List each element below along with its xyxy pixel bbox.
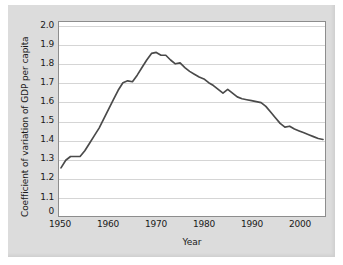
y-axis-tick-label: 1.5 <box>10 116 54 125</box>
x-axis-tick-label: 1950 <box>40 219 80 229</box>
y-axis-tick-label: 2.0 <box>10 21 54 30</box>
y-axis-title-wrapper: Coefficient of variation of GDP per capi… <box>22 217 36 265</box>
x-axis-tick-label: 2000 <box>280 219 320 229</box>
y-axis-tick-label: 1.6 <box>10 97 54 106</box>
x-axis-tick-label: 1980 <box>184 219 224 229</box>
y-axis-tick-label-zero: 0 <box>10 207 54 216</box>
x-axis-tick-label: 1970 <box>136 219 176 229</box>
plot-area <box>58 21 326 217</box>
y-axis-tick-label: 1.1 <box>10 193 54 202</box>
x-axis-tick-label: 1990 <box>232 219 272 229</box>
y-axis-tick-label: 1.2 <box>10 173 54 182</box>
chart-panel: Coefficient of variation of GDP per capi… <box>8 5 335 257</box>
figure: Coefficient of variation of GDP per capi… <box>0 0 343 265</box>
x-axis-title: Year <box>58 237 326 247</box>
series-line-chart <box>59 22 325 216</box>
y-axis-tick-label: 1.9 <box>10 40 54 49</box>
y-axis-tick-label: 1.4 <box>10 135 54 144</box>
series-line <box>61 52 323 167</box>
y-axis-tick-label: 1.7 <box>10 78 54 87</box>
y-axis-tick-label: 1.8 <box>10 59 54 68</box>
y-axis-tick-label: 1.3 <box>10 154 54 163</box>
x-axis-tick-label: 1960 <box>88 219 128 229</box>
